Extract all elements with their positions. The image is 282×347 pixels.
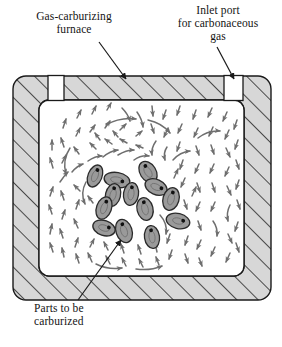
label-gas-carburizing-furnace: Gas-carburizing furnace <box>8 10 140 36</box>
leader-line-inlet <box>217 47 234 79</box>
inlet-port-left <box>48 76 64 101</box>
gas-carburizing-furnace-figure: Gas-carburizing furnace Inlet port for c… <box>0 0 282 347</box>
furnace-diagram <box>0 0 282 347</box>
label-parts-to-be-carburized: Parts to be carburized <box>34 302 138 328</box>
leader-line-furnace <box>99 42 126 79</box>
label-inlet-port: Inlet port for carbonaceous gas <box>158 4 278 43</box>
